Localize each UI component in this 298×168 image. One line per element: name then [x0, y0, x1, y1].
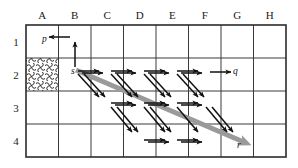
column-header-e: E: [169, 9, 176, 21]
column-header-d: D: [136, 9, 144, 21]
row-label-set: 1234: [13, 36, 19, 147]
arrow-diagonal-down: [183, 74, 204, 97]
column-header-h: H: [266, 9, 274, 21]
node-label-set: psqr: [41, 34, 241, 150]
grid-lines: [26, 25, 286, 157]
arrow-diagonal-down: [144, 107, 165, 132]
column-header-c: C: [104, 9, 111, 21]
arrow-diagonal-down: [144, 74, 165, 97]
row-label-4: 4: [13, 135, 19, 147]
blocked-cell-a2: [26, 58, 59, 91]
grid-diagram-svg: ABCDEFGH 1234 psqr: [0, 0, 298, 168]
node-label-s: s: [71, 66, 75, 76]
arrow-diagonal-down: [150, 74, 171, 97]
column-header-f: F: [202, 9, 208, 21]
column-header-a: A: [38, 9, 46, 21]
row-label-3: 3: [13, 102, 19, 114]
arrow-diagonal-down: [111, 107, 132, 132]
node-label-p: p: [41, 34, 47, 44]
row-label-1: 1: [13, 36, 19, 48]
row-label-2: 2: [13, 69, 19, 81]
node-label-r: r: [237, 140, 241, 150]
arrow-diagonal-down: [177, 74, 198, 97]
column-header-set: ABCDEFGH: [38, 9, 274, 21]
node-label-q: q: [233, 66, 238, 76]
column-header-b: B: [71, 9, 78, 21]
arrow-diagonal-down: [117, 107, 138, 132]
blocked-cell: [26, 58, 59, 91]
figure-container: ABCDEFGH 1234 psqr: [0, 0, 298, 168]
column-header-g: G: [233, 9, 241, 21]
